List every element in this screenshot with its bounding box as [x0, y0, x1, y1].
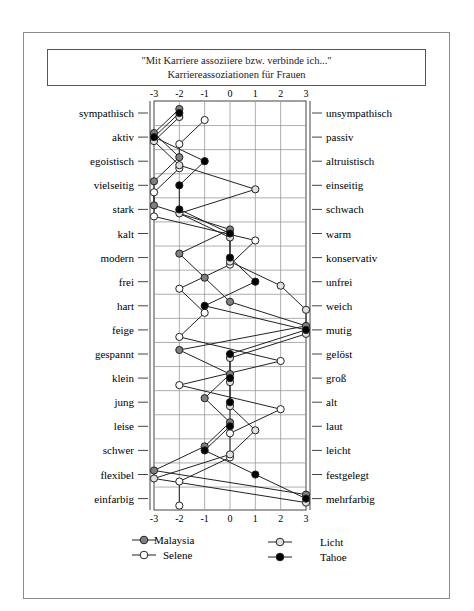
data-point-tahoe: [226, 350, 233, 357]
data-point-selene: [150, 189, 157, 196]
data-point-selene: [226, 430, 233, 437]
data-point-tahoe: [150, 134, 157, 141]
data-point-tahoe: [176, 109, 183, 116]
data-point-tahoe: [226, 230, 233, 237]
data-point-selene: [201, 116, 208, 123]
row-label-right: alt: [326, 396, 337, 408]
row-label-left: leise: [114, 420, 134, 432]
row-label-right: groß: [326, 372, 347, 384]
data-point-malaysia: [176, 250, 183, 257]
row-label-right: altruistisch: [326, 155, 375, 167]
row-label-left: stark: [113, 203, 135, 215]
x-tick-top: 0: [228, 88, 233, 99]
legend-marker-selene: [140, 551, 148, 559]
x-tick-top: -1: [200, 88, 208, 99]
data-point-selene: [176, 382, 183, 389]
row-label-right: unfrei: [326, 276, 352, 288]
row-label-right: schwach: [326, 203, 364, 215]
row-label-right: passiv: [326, 131, 354, 143]
data-point-tahoe: [226, 375, 233, 382]
profile-chart: -3-3-2-2-1-100112233sympathischunsympath…: [0, 0, 474, 611]
x-tick-top: -3: [150, 88, 158, 99]
data-point-malaysia: [150, 178, 157, 185]
data-point-malaysia: [176, 346, 183, 353]
data-point-tahoe: [252, 471, 259, 478]
legend-label-selene: Selene: [163, 549, 192, 561]
data-point-tahoe: [302, 326, 309, 333]
legend-label-licht: Licht: [320, 536, 343, 548]
data-point-licht: [277, 282, 284, 289]
data-point-licht: [176, 162, 183, 169]
x-tick-bottom: 1: [253, 513, 258, 524]
data-point-selene: [201, 309, 208, 316]
row-label-right: mutig: [326, 324, 352, 336]
row-label-right: warm: [326, 228, 351, 240]
row-label-right: festgelegt: [326, 469, 369, 481]
row-label-left: modern: [100, 252, 134, 264]
x-tick-bottom: -1: [200, 513, 208, 524]
data-point-selene: [176, 478, 183, 485]
data-point-tahoe: [226, 399, 233, 406]
data-point-tahoe: [226, 423, 233, 430]
data-point-licht: [252, 186, 259, 193]
data-point-licht: [252, 427, 259, 434]
row-label-left: hart: [117, 300, 134, 312]
row-label-left: egoistisch: [90, 155, 134, 167]
legend-marker-licht: [276, 538, 284, 546]
data-point-selene: [176, 285, 183, 292]
row-label-left: jung: [113, 396, 134, 408]
data-point-licht: [302, 306, 309, 313]
data-point-tahoe: [201, 302, 208, 309]
x-tick-bottom: 3: [304, 513, 309, 524]
data-point-tahoe: [201, 158, 208, 165]
data-point-malaysia: [150, 202, 157, 209]
data-point-malaysia: [201, 274, 208, 281]
row-label-right: konservativ: [326, 252, 378, 264]
data-point-selene: [176, 333, 183, 340]
row-label-right: leicht: [326, 444, 350, 456]
x-tick-bottom: -3: [150, 513, 158, 524]
data-point-malaysia: [150, 467, 157, 474]
legend-marker-malaysia: [140, 536, 148, 544]
series-line-selene: [154, 120, 281, 506]
row-label-right: weich: [326, 300, 353, 312]
x-tick-top: 2: [278, 88, 283, 99]
row-label-left: gespannt: [95, 348, 134, 360]
row-label-left: feige: [112, 324, 134, 336]
x-tick-bottom: 2: [278, 513, 283, 524]
legend-label-malaysia: Malaysia: [154, 534, 194, 546]
x-tick-top: 1: [253, 88, 258, 99]
row-label-left: frei: [119, 276, 134, 288]
row-label-left: sympathisch: [79, 107, 134, 119]
x-tick-bottom: 0: [228, 513, 233, 524]
data-point-tahoe: [252, 278, 259, 285]
row-label-right: mehrfarbig: [326, 493, 375, 505]
row-label-left: flexibel: [100, 469, 134, 481]
row-label-left: kalt: [118, 228, 135, 240]
data-point-malaysia: [226, 298, 233, 305]
row-label-right: einseitig: [326, 179, 364, 191]
legend-label-tahoe: Tahoe: [320, 551, 347, 563]
data-point-selene: [277, 357, 284, 364]
data-point-licht: [226, 451, 233, 458]
x-tick-bottom: -2: [175, 513, 183, 524]
data-point-tahoe: [201, 447, 208, 454]
data-point-malaysia: [201, 395, 208, 402]
data-point-selene: [176, 502, 183, 509]
row-label-left: vielseitig: [94, 179, 135, 191]
data-point-malaysia: [176, 154, 183, 161]
row-label-left: einfarbig: [94, 493, 134, 505]
data-point-selene: [150, 213, 157, 220]
data-point-selene: [176, 141, 183, 148]
data-point-tahoe: [176, 206, 183, 213]
data-point-tahoe: [176, 182, 183, 189]
row-label-left: aktiv: [112, 131, 134, 143]
x-tick-top: 3: [304, 88, 309, 99]
data-point-tahoe: [302, 495, 309, 502]
row-label-right: unsympathisch: [326, 107, 392, 119]
data-point-selene: [252, 237, 259, 244]
data-point-licht: [150, 475, 157, 482]
row-label-right: gelöst: [326, 348, 352, 360]
data-point-tahoe: [226, 254, 233, 261]
row-label-left: schwer: [103, 444, 134, 456]
